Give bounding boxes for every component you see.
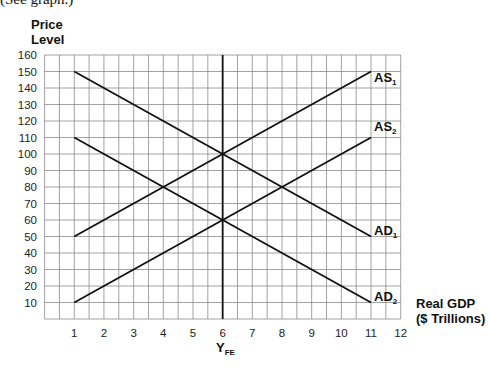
x-tick-label: 1 [71, 327, 77, 339]
x-axis-ticks: 123456789101112 [71, 327, 407, 339]
ad1-label: AD1 [374, 223, 398, 240]
y-tick-label: 160 [18, 49, 37, 61]
y-tick-label: 20 [24, 280, 37, 292]
as2-label: AS2 [374, 119, 397, 136]
y-tick-label: 100 [18, 148, 37, 160]
y-tick-label: 40 [24, 247, 37, 259]
x-tick-label: 4 [160, 327, 167, 339]
x-tick-label: 9 [308, 327, 314, 339]
x-tick-label: 6 [219, 327, 225, 339]
x-tick-label: 10 [335, 327, 348, 339]
y-tick-label: 120 [18, 115, 37, 127]
y-tick-label: 90 [24, 165, 37, 177]
x-tick-label: 7 [249, 327, 255, 339]
x-tick-label: 11 [365, 327, 377, 339]
y-tick-label: 80 [24, 181, 37, 193]
y-tick-label: 10 [24, 297, 37, 309]
x-tick-label: 12 [394, 327, 407, 339]
y-axis-ticks: 102030405060708090100110120130140150160 [18, 49, 37, 309]
y-tick-label: 60 [24, 214, 37, 226]
y-tick-label: 30 [24, 264, 37, 276]
ad2-label: AD2 [374, 289, 398, 306]
x-tick-label: 5 [190, 327, 196, 339]
y-tick-label: 150 [18, 66, 37, 78]
x-tick-label: 8 [279, 327, 285, 339]
yfe-label: YFE [216, 340, 236, 357]
y-tick-label: 140 [18, 82, 37, 94]
y-tick-label: 110 [19, 132, 37, 144]
y-tick-label: 70 [24, 198, 37, 210]
x-tick-label: 3 [130, 327, 136, 339]
as-ad-chart: 102030405060708090100110120130140150160 … [0, 0, 488, 372]
y-tick-label: 130 [18, 99, 37, 111]
y-tick-label: 50 [24, 231, 37, 243]
x-tick-label: 2 [101, 327, 107, 339]
as1-label: AS1 [374, 70, 397, 87]
